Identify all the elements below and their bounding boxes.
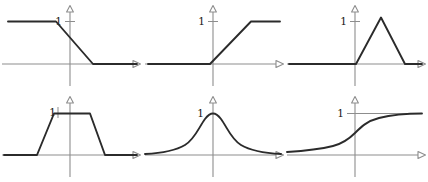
panel-gaussian-bell-curve: 1 xyxy=(143,91,286,182)
axes-group xyxy=(2,6,140,86)
y-tick-label: 1 xyxy=(341,15,348,27)
y-axis-arrow-icon xyxy=(209,96,216,102)
x-axis-arrow-icon xyxy=(418,151,425,158)
curve-falling-ramp xyxy=(8,22,137,64)
y-tick-label: 1 xyxy=(338,107,345,119)
panel-rising-ramp: 1 xyxy=(143,0,286,91)
function-plot-figure: 1 1 1 xyxy=(0,0,428,181)
y-axis-arrow-icon xyxy=(352,96,359,102)
axes-group xyxy=(287,96,425,176)
y-axis-arrow-icon xyxy=(67,6,74,12)
x-axis-arrow-icon xyxy=(276,151,283,158)
y-tick-label: 1 xyxy=(197,107,204,119)
curve-rising-ramp xyxy=(148,22,280,64)
axes-group xyxy=(2,96,140,176)
axes-group xyxy=(145,6,283,86)
y-axis-arrow-icon xyxy=(352,6,359,12)
panel-falling-ramp: 1 xyxy=(0,0,143,91)
panel-triangular-pulse: 1 xyxy=(285,0,428,91)
y-tick-label: 1 xyxy=(198,15,205,27)
y-axis-arrow-icon xyxy=(67,96,74,102)
y-axis-arrow-icon xyxy=(209,6,216,12)
panel-trapezoidal-pulse: 1 xyxy=(0,91,143,182)
axes-group xyxy=(287,6,425,86)
x-axis-arrow-icon xyxy=(276,61,283,68)
panel-sigmoid-curve: 1 xyxy=(285,91,428,182)
axes-group xyxy=(145,96,283,176)
